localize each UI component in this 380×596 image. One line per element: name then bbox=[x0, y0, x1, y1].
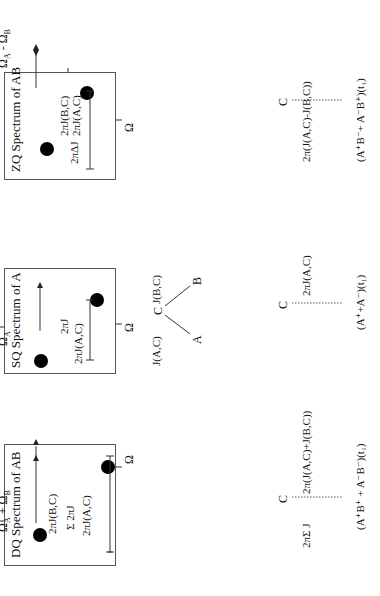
evolution-lines bbox=[0, 0, 380, 596]
sq-node-c: C bbox=[276, 301, 291, 309]
sq-evolution-top: 2πJ(A,C) bbox=[300, 255, 312, 296]
sq-operator: (A⁺+A⁻)(t₁) bbox=[354, 275, 367, 330]
dq-node-c: C bbox=[276, 495, 291, 503]
dq-evolution-top: 2π(J(A,C)+J(B,C)) bbox=[300, 411, 312, 494]
nmr-multiple-quantum-diagram: DQ Spectrum of AB ΩA + ΩB Ω 2πJ(B,C) 2πJ… bbox=[0, 0, 380, 596]
dq-operator: (A⁺B⁺ + A⁻B⁻)(t₁) bbox=[354, 444, 367, 530]
dq-evolution-bottom: 2πΣ J bbox=[300, 524, 312, 549]
zq-evolution-top: 2π(J(A,C)-J(B,C)) bbox=[300, 81, 312, 162]
zq-operator: (A⁺B⁻+ A⁻B⁺)(t₁) bbox=[354, 78, 367, 162]
zq-node-c: C bbox=[276, 98, 291, 106]
